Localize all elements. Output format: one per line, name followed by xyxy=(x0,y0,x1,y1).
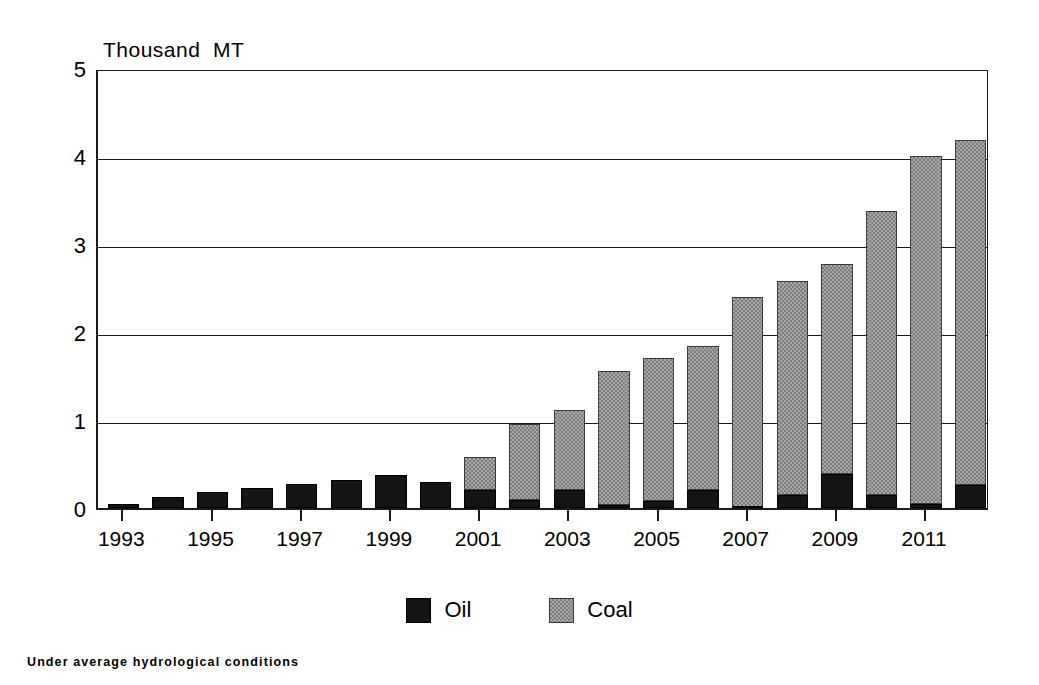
chart-legend: OilCoal xyxy=(0,597,1039,623)
bar-stack[interactable] xyxy=(241,488,272,508)
bar-segment-oil[interactable] xyxy=(420,482,451,508)
y-axis-tick-label: 1 xyxy=(52,411,86,433)
legend-swatch-oil-icon xyxy=(406,598,431,623)
bar-segment-coal[interactable] xyxy=(777,281,808,495)
legend-item[interactable]: Coal xyxy=(549,597,632,623)
x-axis-tick xyxy=(300,510,302,521)
bar-stack[interactable] xyxy=(955,140,986,508)
bar-stack[interactable] xyxy=(420,482,451,508)
x-axis-tick-label: 2009 xyxy=(812,527,859,551)
bar-segment-oil[interactable] xyxy=(598,505,629,508)
bar-stack[interactable] xyxy=(777,281,808,508)
x-axis-tick xyxy=(478,510,480,521)
legend-item[interactable]: Oil xyxy=(406,597,471,623)
bar-stack[interactable] xyxy=(464,457,495,508)
x-axis-tick-label: 1993 xyxy=(98,527,145,551)
y-axis-tick-label: 0 xyxy=(52,499,86,521)
bar-segment-coal[interactable] xyxy=(732,297,763,507)
bar-segment-oil[interactable] xyxy=(554,490,585,508)
bar-segment-oil[interactable] xyxy=(732,506,763,508)
x-axis-tick-label: 2005 xyxy=(633,527,680,551)
bar-segment-coal[interactable] xyxy=(910,156,941,504)
gridline xyxy=(98,159,987,160)
bar-stack[interactable] xyxy=(910,156,941,508)
gridline xyxy=(98,247,987,248)
y-axis-unit-title: Thousand MT xyxy=(103,38,244,62)
bar-segment-oil[interactable] xyxy=(509,500,540,508)
y-axis-labels: 012345 xyxy=(50,70,86,510)
bar-segment-oil[interactable] xyxy=(777,495,808,508)
bar-segment-coal[interactable] xyxy=(643,358,674,501)
bar-segment-oil[interactable] xyxy=(821,474,852,508)
x-axis-tick-label: 2001 xyxy=(455,527,502,551)
x-axis-tick xyxy=(211,510,213,521)
bar-stack[interactable] xyxy=(598,371,629,508)
legend-label: Coal xyxy=(587,597,632,623)
bar-stack[interactable] xyxy=(197,492,228,508)
bar-stack[interactable] xyxy=(687,346,718,508)
x-axis-tick-label: 2011 xyxy=(902,527,947,551)
bar-segment-oil[interactable] xyxy=(108,504,139,508)
bar-stack[interactable] xyxy=(866,211,897,508)
y-axis-tick-label: 2 xyxy=(52,323,86,345)
bar-segment-coal[interactable] xyxy=(598,371,629,506)
x-axis-tick xyxy=(835,510,837,521)
bar-segment-oil[interactable] xyxy=(197,492,228,508)
bar-stack[interactable] xyxy=(821,264,852,508)
x-axis-tick-label: 1997 xyxy=(276,527,323,551)
bar-segment-oil[interactable] xyxy=(286,484,317,508)
x-axis-tick xyxy=(389,510,391,521)
y-axis-tick-label: 4 xyxy=(52,147,86,169)
bar-segment-coal[interactable] xyxy=(554,410,585,489)
stacked-bar-chart: Thousand MT 012345 199319951997199920012… xyxy=(0,0,1039,685)
bar-segment-coal[interactable] xyxy=(821,264,852,473)
plot-area xyxy=(96,70,988,510)
bar-segment-coal[interactable] xyxy=(687,346,718,490)
x-axis-tick xyxy=(121,510,123,521)
bar-segment-coal[interactable] xyxy=(955,140,986,485)
bar-stack[interactable] xyxy=(732,297,763,508)
x-axis-tick-label: 1995 xyxy=(187,527,234,551)
bar-segment-oil[interactable] xyxy=(241,488,272,508)
bar-segment-oil[interactable] xyxy=(464,490,495,508)
y-axis-tick-label: 5 xyxy=(52,59,86,81)
x-axis-tick-label: 1999 xyxy=(366,527,413,551)
gridline xyxy=(98,423,987,424)
bar-segment-oil[interactable] xyxy=(687,490,718,508)
y-axis-tick-label: 3 xyxy=(52,235,86,257)
x-axis-tick-label: 2003 xyxy=(544,527,591,551)
bar-segment-oil[interactable] xyxy=(910,504,941,508)
bar-stack[interactable] xyxy=(108,504,139,508)
chart-footnote: Under average hydrological conditions xyxy=(27,655,299,669)
bar-stack[interactable] xyxy=(152,497,183,508)
bar-segment-oil[interactable] xyxy=(955,485,986,508)
bar-stack[interactable] xyxy=(375,475,406,508)
bar-segment-coal[interactable] xyxy=(866,211,897,494)
bar-segment-oil[interactable] xyxy=(643,501,674,508)
bar-stack[interactable] xyxy=(554,410,585,508)
x-axis-tick xyxy=(567,510,569,521)
gridline xyxy=(98,335,987,336)
x-axis-tick xyxy=(657,510,659,521)
bar-segment-coal[interactable] xyxy=(464,457,495,490)
bar-segment-oil[interactable] xyxy=(152,497,183,508)
bar-segment-oil[interactable] xyxy=(331,480,362,508)
x-axis-tick xyxy=(746,510,748,521)
legend-label: Oil xyxy=(444,597,471,623)
bar-segment-coal[interactable] xyxy=(509,424,540,500)
bar-segment-oil[interactable] xyxy=(866,495,897,508)
bar-stack[interactable] xyxy=(509,424,540,508)
legend-swatch-coal-icon xyxy=(549,598,574,623)
x-axis-tick xyxy=(924,510,926,521)
bar-stack[interactable] xyxy=(331,480,362,508)
bar-segment-oil[interactable] xyxy=(375,475,406,508)
x-axis-tick-label: 2007 xyxy=(722,527,769,551)
bar-stack[interactable] xyxy=(286,484,317,508)
bar-stack[interactable] xyxy=(643,358,674,508)
